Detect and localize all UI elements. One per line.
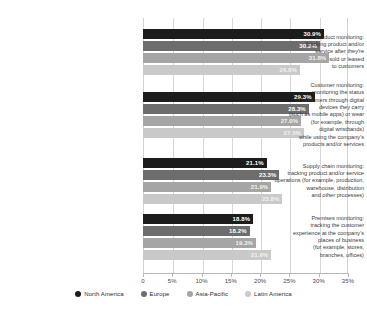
legend-item[interactable]: North America: [75, 291, 123, 297]
category-label: Supply chain monitoring:tracking product…: [229, 163, 367, 200]
legend-swatch-icon: [141, 291, 147, 297]
x-tick-mark: [172, 273, 173, 277]
x-tick-label: 5%: [168, 278, 177, 284]
category-label-line: Supply chain monitoring:: [229, 163, 364, 170]
x-tick-label: 0: [141, 278, 144, 284]
legend-item[interactable]: Asia-Pacific: [187, 291, 229, 297]
legend-swatch-icon: [75, 291, 81, 297]
category-label-line: (for example, stores,: [229, 244, 364, 251]
category-label-line: (for example, through: [229, 119, 364, 126]
x-tick-label: 15%: [225, 278, 237, 284]
x-tick-mark: [143, 273, 144, 277]
category-label: Customer monitoring:monitoring the statu…: [229, 82, 367, 149]
category-label-line: service after they're: [229, 48, 364, 55]
category-label-line: Tracking product and/or: [229, 41, 364, 48]
category-label-line: to customers: [229, 63, 364, 70]
category-label-line: of customers through digital: [229, 97, 364, 104]
category-label-line: sold or leased: [229, 56, 364, 63]
category-label: Product monitoring:Tracking product and/…: [229, 34, 367, 71]
legend-label: Latin America: [254, 291, 292, 297]
x-tick-mark: [348, 273, 349, 277]
x-tick-label: 10%: [195, 278, 207, 284]
category-label-line: Customer monitoring:: [229, 82, 364, 89]
category-label-line: monitoring the status: [229, 89, 364, 96]
category-label-line: Product monitoring:: [229, 34, 364, 41]
category-label-line: warehouse, distribution: [229, 185, 364, 192]
category-label-line: (such as mobile apps) or wear: [229, 111, 364, 118]
x-tick-label: 25%: [283, 278, 295, 284]
x-tick-mark: [260, 273, 261, 277]
chart-legend: North AmericaEuropeAsia-PacificLatin Ame…: [0, 291, 367, 297]
category-label-line: tracking the customer: [229, 222, 364, 229]
x-tick-label: 35%: [342, 278, 354, 284]
legend-label: North America: [84, 291, 123, 297]
category-label-line: digital wristbands): [229, 126, 364, 133]
legend-label: Asia-Pacific: [196, 291, 229, 297]
legend-item[interactable]: Latin America: [245, 291, 292, 297]
x-tick-mark: [231, 273, 232, 277]
category-label: Premises monitoring:tracking the custome…: [229, 215, 367, 259]
category-label-line: devices they carry: [229, 104, 364, 111]
legend-swatch-icon: [187, 291, 193, 297]
category-label-line: experience at the company's: [229, 230, 364, 237]
legend-item[interactable]: Europe: [141, 291, 170, 297]
x-tick-label: 20%: [254, 278, 266, 284]
category-label-line: Premises monitoring:: [229, 215, 364, 222]
category-label-line: while using the company's: [229, 134, 364, 141]
x-tick-mark: [319, 273, 320, 277]
x-tick-mark: [289, 273, 290, 277]
category-label-line: branches, offices): [229, 252, 364, 259]
category-label-line: and other processes): [229, 192, 364, 199]
category-label-line: tracking product and/or service: [229, 170, 364, 177]
category-label-line: products and/or services: [229, 141, 364, 148]
legend-swatch-icon: [245, 291, 251, 297]
x-tick-mark: [202, 273, 203, 277]
grouped-bar-chart: 05%10%15%20%25%30%35% 30.9%30.2%31.8%26.…: [0, 0, 367, 315]
x-axis-line: [143, 273, 348, 274]
x-tick-label: 30%: [313, 278, 325, 284]
category-label-line: places of business: [229, 237, 364, 244]
legend-label: Europe: [150, 291, 170, 297]
category-label-line: operations (for example, production,: [229, 177, 364, 184]
